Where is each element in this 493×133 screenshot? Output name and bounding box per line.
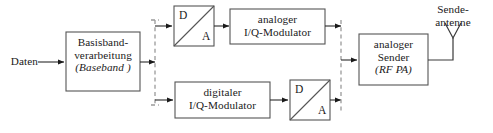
analog-iq-line-2: I/Q-Modulator: [230, 26, 325, 39]
block-transmitter-labels: analoger Sender (RF PA): [359, 38, 428, 76]
antenna-label-line-1: Sende-: [422, 3, 484, 16]
baseband-line-3: (Baseband ): [66, 61, 140, 74]
block-analog-iq-labels: analoger I/Q-Modulator: [230, 13, 325, 38]
transmitter-line-1: analoger: [359, 38, 428, 51]
digital-iq-line-1: digitaler: [175, 86, 270, 99]
antenna-label-line-2: antenne: [422, 16, 484, 29]
transmitter-line-3: (RF PA): [359, 63, 428, 76]
block-baseband-labels: Basisband- verarbeitung (Baseband ): [66, 36, 140, 74]
antenna-labels: Sende- antenne: [422, 3, 484, 28]
digital-iq-line-2: I/Q-Modulator: [175, 99, 270, 112]
analog-iq-line-1: analoger: [230, 13, 325, 26]
baseband-line-2: verarbeitung: [66, 49, 140, 62]
baseband-line-1: Basisband-: [66, 36, 140, 49]
dac-bottom-digital-letter: D: [295, 83, 303, 95]
block-digital-iq-labels: digitaler I/Q-Modulator: [175, 86, 270, 111]
transmitter-line-2: Sender: [359, 51, 428, 64]
wire-transmitter-to-antenna: [428, 38, 453, 60]
dac-top-analog-letter: A: [202, 30, 210, 42]
dac-top-digital-letter: D: [179, 9, 187, 21]
dac-bottom-analog-letter: A: [318, 104, 326, 116]
block-diagram: Daten Basisband- verarbeitung (Baseband …: [0, 0, 493, 133]
input-label: Daten: [0, 55, 38, 68]
